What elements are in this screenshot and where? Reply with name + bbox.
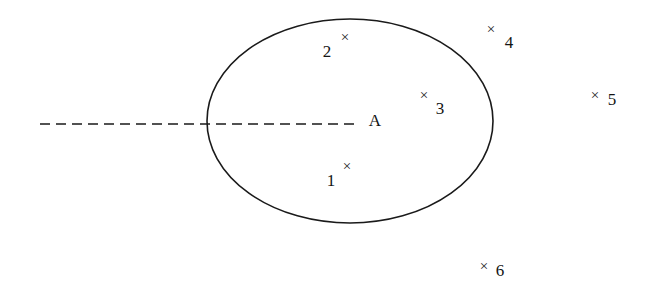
point-label-3: 3 [436, 100, 445, 117]
point-label-2: 2 [323, 43, 332, 60]
point-label-1: 1 [327, 172, 336, 189]
point-label-6: 6 [496, 262, 505, 279]
x-mark-icon: × [341, 30, 349, 45]
x-mark-icon: × [487, 22, 495, 37]
point-label-4: 4 [505, 34, 514, 51]
diagram-canvas: A × 1 × 2 × 3 × 4 × 5 × 6 [0, 0, 648, 290]
x-mark-icon: × [420, 88, 428, 103]
point-label-5: 5 [608, 91, 617, 108]
x-mark-icon: × [480, 259, 488, 274]
region-a-ellipse [207, 19, 493, 223]
x-mark-icon: × [343, 159, 351, 174]
x-mark-icon: × [591, 88, 599, 103]
